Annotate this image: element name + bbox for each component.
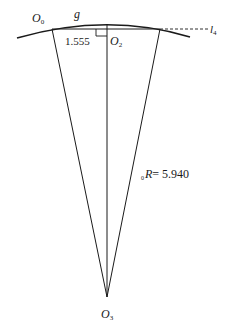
label-g: g (74, 7, 80, 21)
label-O2: O2 (110, 34, 123, 49)
radius-left (52, 29, 107, 297)
label-l4: l4 (210, 23, 217, 37)
geometry-diagram: O0 g 1.555 O2 l4 0R= 5.940 O3 (0, 0, 227, 332)
label-O0: O0 (32, 11, 45, 26)
label-dimension: 1.555 (65, 35, 90, 47)
radius-right (107, 29, 160, 297)
right-angle-marker (96, 29, 107, 36)
label-radius: 0R= 5.940 (141, 167, 189, 181)
label-O3: O3 (101, 307, 114, 322)
